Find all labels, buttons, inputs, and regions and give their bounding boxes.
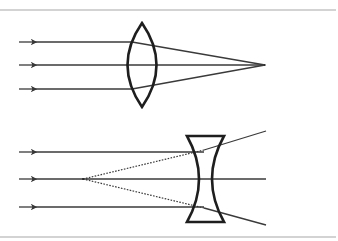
lens-diagram-svg bbox=[0, 0, 338, 241]
virtual-ray-bottom bbox=[83, 179, 204, 208]
virtual-ray-top bbox=[83, 150, 204, 179]
refracted-ray-top bbox=[132, 42, 265, 65]
lens-diagram bbox=[0, 0, 338, 241]
virtual-focal-point bbox=[82, 178, 84, 180]
focal-point bbox=[264, 64, 266, 66]
converging-lens-panel bbox=[19, 23, 266, 107]
diverged-ray-top bbox=[204, 131, 266, 150]
diverging-lens-panel bbox=[19, 131, 266, 225]
